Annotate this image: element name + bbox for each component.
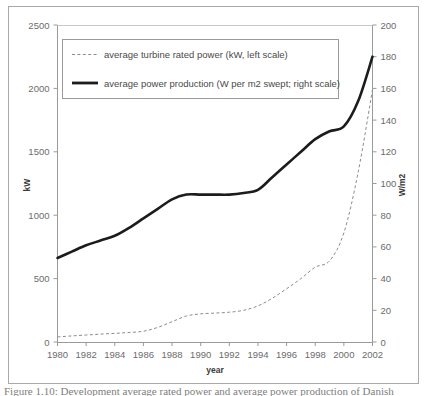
right-tick-label: 40: [381, 273, 392, 284]
left-tick-label: 500: [34, 273, 50, 284]
right-tick-label: 200: [381, 20, 397, 31]
figure-caption: Figure 1.10: Development average rated p…: [4, 385, 394, 396]
chart-canvas: 05001000150020002500 0204060801001201401…: [0, 0, 429, 396]
chart-legend: average turbine rated power (kW, left sc…: [63, 40, 341, 99]
left-tick-label: 0: [44, 337, 49, 348]
left-tick-label: 2000: [28, 83, 49, 94]
x-tick-label: 1984: [104, 349, 125, 360]
x-tick-label: 1986: [133, 349, 154, 360]
x-tick-label: 2000: [333, 349, 354, 360]
figure-root: 05001000150020002500 0204060801001201401…: [0, 0, 429, 396]
x-tick-label: 1996: [276, 349, 297, 360]
legend-label-power-production: average power production (W per m2 swept…: [104, 78, 340, 89]
legend-label-turbine-rated-power: average turbine rated power (kW, left sc…: [104, 49, 288, 60]
x-tick-label: 1998: [305, 349, 326, 360]
x-tick-label: 1980: [47, 349, 68, 360]
right-axis-title: W/m2: [397, 173, 407, 196]
left-tick-label: 2500: [28, 20, 49, 31]
x-tick-label: 1982: [76, 349, 97, 360]
right-tick-label: 0: [381, 337, 386, 348]
right-tick-label: 180: [381, 51, 397, 62]
left-axis-title: kW: [22, 178, 32, 192]
right-axis-ticks: 020406080100120140160180200: [373, 20, 397, 348]
left-axis-ticks: 05001000150020002500: [28, 20, 57, 348]
x-tick-label: 1992: [219, 349, 240, 360]
left-tick-label: 1500: [28, 146, 49, 157]
series-line-turbine-rated-power: [58, 90, 373, 337]
x-tick-label: 1994: [247, 349, 268, 360]
right-tick-label: 100: [381, 178, 397, 189]
right-tick-label: 140: [381, 115, 397, 126]
x-tick-label: 1990: [190, 349, 211, 360]
x-tick-label: 2002: [362, 349, 383, 360]
right-tick-label: 120: [381, 146, 397, 157]
right-tick-label: 160: [381, 83, 397, 94]
right-tick-label: 60: [381, 241, 392, 252]
x-tick-label: 1988: [161, 349, 182, 360]
right-tick-label: 20: [381, 305, 392, 316]
right-tick-label: 80: [381, 210, 392, 221]
left-tick-label: 1000: [28, 210, 49, 221]
x-axis-title: year: [206, 365, 224, 375]
bottom-axis-ticks: 1980198219841986198819901992199419961998…: [47, 342, 383, 360]
